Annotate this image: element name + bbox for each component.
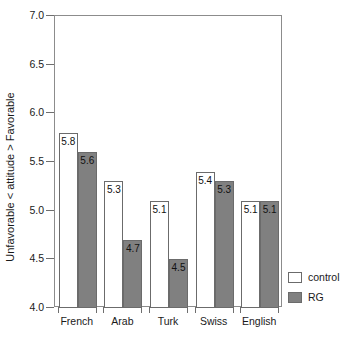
y-tick-label: 7.0 bbox=[16, 10, 44, 21]
legend-swatch-control-icon bbox=[288, 272, 302, 283]
bar-swiss-rg[interactable]: 5.3 bbox=[215, 181, 234, 308]
bar-value-label: 4.7 bbox=[124, 244, 141, 254]
y-tick-label: 5.0 bbox=[16, 205, 44, 216]
bar-value-label: 5.4 bbox=[197, 176, 214, 186]
legend-item-control[interactable]: control bbox=[288, 270, 346, 290]
x-tick-mark bbox=[240, 307, 241, 313]
x-tick-mark bbox=[96, 307, 97, 313]
y-tick-label: 4.0 bbox=[16, 302, 44, 313]
bar-value-label: 5.6 bbox=[79, 156, 96, 166]
plot-area: 5.85.65.34.75.14.55.45.35.15.1 bbox=[54, 15, 282, 307]
bar-french-control[interactable]: 5.8 bbox=[59, 133, 78, 308]
bar-value-label: 5.1 bbox=[242, 205, 259, 215]
y-tick-mark bbox=[46, 307, 54, 308]
y-tick-mark bbox=[46, 161, 54, 162]
bar-value-label: 5.8 bbox=[60, 137, 77, 147]
y-tick-label: 4.5 bbox=[16, 253, 44, 264]
bar-swiss-control[interactable]: 5.4 bbox=[196, 172, 215, 308]
y-tick-label: 6.5 bbox=[16, 59, 44, 70]
y-tick-label: 6.0 bbox=[16, 107, 44, 118]
chart-legend: control RG bbox=[288, 270, 346, 310]
y-tick-mark bbox=[46, 64, 54, 65]
x-tick-mark bbox=[141, 307, 142, 313]
legend-label-control: control bbox=[308, 271, 340, 283]
bar-value-label: 5.3 bbox=[105, 185, 122, 195]
bar-value-label: 4.5 bbox=[170, 263, 187, 273]
bar-turk-control[interactable]: 5.1 bbox=[150, 201, 169, 308]
bar-turk-rg[interactable]: 4.5 bbox=[169, 259, 188, 308]
x-tick-mark bbox=[195, 307, 196, 313]
bar-value-label: 5.3 bbox=[216, 185, 233, 195]
x-tick-mark bbox=[233, 307, 234, 313]
x-tick-mark bbox=[187, 307, 188, 313]
bar-english-rg[interactable]: 5.1 bbox=[260, 201, 279, 308]
bar-value-label: 5.1 bbox=[151, 205, 168, 215]
y-tick-mark bbox=[46, 112, 54, 113]
legend-item-rg[interactable]: RG bbox=[288, 290, 346, 310]
y-tick-mark bbox=[46, 15, 54, 16]
bar-arab-control[interactable]: 5.3 bbox=[104, 181, 123, 308]
bar-arab-rg[interactable]: 4.7 bbox=[123, 240, 142, 308]
x-tick-mark bbox=[278, 307, 279, 313]
bar-value-label: 5.1 bbox=[261, 205, 278, 215]
y-tick-mark bbox=[46, 210, 54, 211]
legend-label-rg: RG bbox=[308, 291, 324, 303]
y-tick-mark bbox=[46, 258, 54, 259]
x-tick-label-english: English bbox=[229, 316, 289, 327]
bar-french-rg[interactable]: 5.6 bbox=[78, 152, 97, 308]
x-tick-mark bbox=[149, 307, 150, 313]
x-tick-mark bbox=[58, 307, 59, 313]
y-tick-label: 5.5 bbox=[16, 156, 44, 167]
bar-chart-figure: Unfavorable < attitude > Favorable 7.06.… bbox=[0, 0, 347, 340]
legend-swatch-rg-icon bbox=[288, 292, 302, 303]
x-tick-mark bbox=[103, 307, 104, 313]
bar-english-control[interactable]: 5.1 bbox=[241, 201, 260, 308]
y-axis-label: Unfavorable < attitude > Favorable bbox=[2, 31, 18, 323]
